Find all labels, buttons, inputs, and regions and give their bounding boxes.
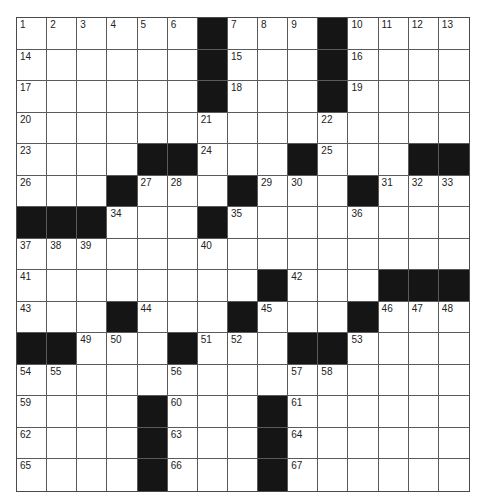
- grid-cell[interactable]: [138, 207, 168, 239]
- grid-cell[interactable]: 29: [258, 176, 288, 208]
- grid-cell[interactable]: 25: [318, 144, 348, 176]
- grid-cell[interactable]: [439, 81, 469, 113]
- grid-cell[interactable]: [439, 113, 469, 145]
- grid-cell[interactable]: [168, 113, 198, 145]
- grid-cell[interactable]: [168, 207, 198, 239]
- grid-cell[interactable]: [138, 270, 168, 302]
- grid-cell[interactable]: [198, 428, 228, 460]
- grid-cell[interactable]: [228, 270, 258, 302]
- grid-cell[interactable]: [77, 302, 107, 334]
- grid-cell[interactable]: [439, 50, 469, 82]
- grid-cell[interactable]: [47, 144, 77, 176]
- grid-cell[interactable]: 66: [168, 459, 198, 491]
- grid-cell[interactable]: 62: [17, 428, 47, 460]
- grid-cell[interactable]: 14: [17, 50, 47, 82]
- grid-cell[interactable]: [439, 428, 469, 460]
- grid-cell[interactable]: [228, 459, 258, 491]
- grid-cell[interactable]: [198, 396, 228, 428]
- grid-cell[interactable]: [228, 396, 258, 428]
- grid-cell[interactable]: [409, 239, 439, 271]
- grid-cell[interactable]: [47, 270, 77, 302]
- grid-cell[interactable]: 32: [409, 176, 439, 208]
- grid-cell[interactable]: [288, 302, 318, 334]
- grid-cell[interactable]: [47, 113, 77, 145]
- grid-cell[interactable]: [47, 459, 77, 491]
- grid-cell[interactable]: [258, 113, 288, 145]
- grid-cell[interactable]: [409, 396, 439, 428]
- grid-cell[interactable]: [318, 239, 348, 271]
- grid-cell[interactable]: 26: [17, 176, 47, 208]
- grid-cell[interactable]: 57: [288, 365, 318, 397]
- grid-cell[interactable]: 51: [198, 333, 228, 365]
- grid-cell[interactable]: 52: [228, 333, 258, 365]
- grid-cell[interactable]: [77, 113, 107, 145]
- grid-cell[interactable]: [168, 81, 198, 113]
- grid-cell[interactable]: [47, 396, 77, 428]
- grid-cell[interactable]: [318, 207, 348, 239]
- grid-cell[interactable]: 50: [107, 333, 137, 365]
- grid-cell[interactable]: [107, 239, 137, 271]
- grid-cell[interactable]: [348, 144, 378, 176]
- grid-cell[interactable]: [288, 113, 318, 145]
- grid-cell[interactable]: [47, 302, 77, 334]
- grid-cell[interactable]: 6: [168, 18, 198, 50]
- grid-cell[interactable]: [379, 365, 409, 397]
- grid-cell[interactable]: 38: [47, 239, 77, 271]
- grid-cell[interactable]: [288, 239, 318, 271]
- grid-cell[interactable]: 11: [379, 18, 409, 50]
- grid-cell[interactable]: 55: [47, 365, 77, 397]
- grid-cell[interactable]: 44: [138, 302, 168, 334]
- grid-cell[interactable]: 49: [77, 333, 107, 365]
- grid-cell[interactable]: 48: [439, 302, 469, 334]
- grid-cell[interactable]: [258, 207, 288, 239]
- grid-cell[interactable]: 19: [348, 81, 378, 113]
- grid-cell[interactable]: [107, 81, 137, 113]
- grid-cell[interactable]: [409, 113, 439, 145]
- grid-cell[interactable]: 39: [77, 239, 107, 271]
- grid-cell[interactable]: 54: [17, 365, 47, 397]
- grid-cell[interactable]: 43: [17, 302, 47, 334]
- grid-cell[interactable]: 34: [107, 207, 137, 239]
- grid-cell[interactable]: [439, 396, 469, 428]
- grid-cell[interactable]: [379, 144, 409, 176]
- grid-cell[interactable]: 42: [288, 270, 318, 302]
- grid-cell[interactable]: [379, 333, 409, 365]
- grid-cell[interactable]: [107, 396, 137, 428]
- grid-cell[interactable]: [409, 81, 439, 113]
- grid-cell[interactable]: [47, 428, 77, 460]
- grid-cell[interactable]: 56: [168, 365, 198, 397]
- grid-cell[interactable]: [198, 270, 228, 302]
- grid-cell[interactable]: 1: [17, 18, 47, 50]
- grid-cell[interactable]: [409, 428, 439, 460]
- grid-cell[interactable]: [348, 459, 378, 491]
- grid-cell[interactable]: [379, 396, 409, 428]
- grid-cell[interactable]: [379, 207, 409, 239]
- grid-cell[interactable]: [258, 333, 288, 365]
- grid-cell[interactable]: [379, 113, 409, 145]
- grid-cell[interactable]: [409, 459, 439, 491]
- grid-cell[interactable]: [138, 50, 168, 82]
- grid-cell[interactable]: [318, 176, 348, 208]
- grid-cell[interactable]: [47, 81, 77, 113]
- grid-cell[interactable]: [258, 144, 288, 176]
- grid-cell[interactable]: [228, 239, 258, 271]
- grid-cell[interactable]: 53: [348, 333, 378, 365]
- grid-cell[interactable]: [77, 270, 107, 302]
- grid-cell[interactable]: [107, 365, 137, 397]
- grid-cell[interactable]: [198, 365, 228, 397]
- grid-cell[interactable]: 58: [318, 365, 348, 397]
- grid-cell[interactable]: [228, 428, 258, 460]
- grid-cell[interactable]: 33: [439, 176, 469, 208]
- grid-cell[interactable]: [348, 113, 378, 145]
- grid-cell[interactable]: 28: [168, 176, 198, 208]
- grid-cell[interactable]: [107, 428, 137, 460]
- grid-cell[interactable]: [198, 302, 228, 334]
- grid-cell[interactable]: [348, 428, 378, 460]
- grid-cell[interactable]: 2: [47, 18, 77, 50]
- grid-cell[interactable]: 9: [288, 18, 318, 50]
- grid-cell[interactable]: [288, 207, 318, 239]
- grid-cell[interactable]: [138, 113, 168, 145]
- grid-cell[interactable]: 15: [228, 50, 258, 82]
- grid-cell[interactable]: 12: [409, 18, 439, 50]
- grid-cell[interactable]: [379, 239, 409, 271]
